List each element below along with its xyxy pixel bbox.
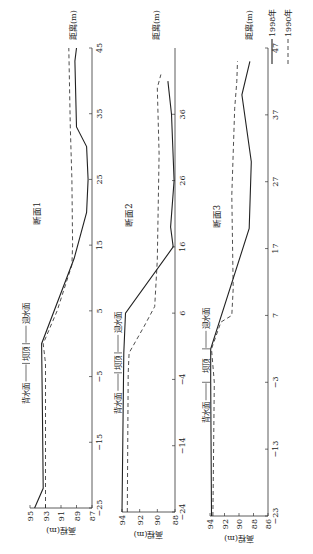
y-axis-label: 高程(m) — [224, 534, 254, 544]
x-axis-label: 距离(m) — [68, 10, 78, 40]
y-tick-label: 90 — [235, 519, 244, 529]
x-tick-label: 35 — [95, 109, 104, 119]
series-1998-line — [211, 61, 252, 516]
front-slope-label: 迎水面 — [21, 302, 31, 324]
x-tick-label: −15 — [95, 434, 104, 451]
y-tick-label: 93 — [42, 511, 51, 521]
y-tick-label: 95 — [26, 511, 35, 521]
y-axis-label: 高程(m) — [134, 530, 164, 540]
series-1990-line — [127, 75, 161, 513]
y-tick-label: 88 — [250, 519, 259, 529]
x-tick-label: −23 — [271, 508, 280, 525]
panel-section-1: 8789919395−25−15−5515253545高程(m)距离(m)断面1… — [21, 10, 104, 536]
x-tick-label: −25 — [95, 500, 104, 517]
x-tick-label: −13 — [271, 441, 280, 458]
x-tick-label: 36 — [178, 109, 187, 119]
crest-annotation: 坝顶背水面迎水面 — [113, 311, 123, 414]
crest-annotation: 坝顶背水面迎水面 — [21, 302, 31, 405]
back-slope-label: 背水面 — [113, 392, 123, 414]
x-tick-label: −24 — [178, 504, 187, 521]
panel-title: 断面2 — [124, 203, 134, 226]
x-tick-label: 7 — [271, 313, 280, 318]
panel-section-2: 88909294−24−14−46162636高程(m)距离(m)断面2坝顶背水… — [113, 10, 187, 540]
legend-label: 1990年 — [283, 9, 293, 37]
x-tick-label: −14 — [178, 437, 187, 454]
y-tick-label: 92 — [221, 519, 230, 529]
back-slope-label: 背水面 — [21, 382, 31, 404]
x-tick-label: −5 — [95, 371, 104, 383]
series-1998-line — [122, 81, 174, 512]
upright-chart-group: 8789919395−25−15−5515253545高程(m)距离(m)断面1… — [21, 9, 293, 544]
y-tick-label: 94 — [206, 519, 215, 529]
crest-label: 坝顶 — [22, 346, 31, 361]
y-tick-label: 94 — [118, 515, 127, 525]
panel-title: 断面1 — [32, 202, 42, 225]
x-tick-label: 17 — [271, 243, 280, 253]
x-tick-label: 26 — [178, 175, 187, 185]
figure-svg: 8789919395−25−15−5515253545高程(m)距离(m)断面1… — [0, 0, 313, 554]
x-tick-label: 45 — [95, 43, 104, 53]
x-tick-label: 16 — [178, 242, 187, 252]
y-tick-label: 90 — [153, 515, 162, 525]
panel-section-3: 8688909294−23−13−3717273747高程(m)距离(m)断面3… — [201, 10, 280, 544]
crest-label: 坝顶 — [202, 358, 211, 373]
x-tick-label: −4 — [178, 374, 187, 386]
legend: 1990年1998年 — [267, 9, 293, 64]
back-slope-label: 背水面 — [201, 401, 211, 423]
x-tick-label: 5 — [95, 308, 104, 313]
y-axis-label: 高程(m) — [46, 526, 76, 536]
rotated-figure: 8789919395−25−15−5515253545高程(m)距离(m)断面1… — [0, 0, 313, 554]
front-slope-label: 迎水面 — [201, 307, 211, 329]
x-tick-label: 37 — [271, 110, 280, 120]
x-tick-label: −3 — [271, 376, 280, 388]
x-tick-label: 27 — [271, 177, 280, 187]
x-tick-label: 25 — [95, 174, 104, 184]
series-1990-line — [212, 61, 238, 516]
series-1998-line — [35, 48, 89, 508]
crest-label: 坝顶 — [114, 355, 123, 370]
crest-annotation: 坝顶背水面迎水面 — [201, 307, 211, 423]
x-tick-label: 6 — [178, 311, 187, 316]
x-tick-label: 15 — [95, 240, 104, 250]
front-slope-label: 迎水面 — [113, 311, 123, 333]
x-axis-label: 距离(m) — [151, 10, 161, 40]
y-tick-label: 92 — [136, 515, 145, 525]
x-axis-label: 距离(m) — [244, 10, 254, 40]
legend-label: 1998年 — [267, 9, 277, 37]
y-tick-label: 89 — [73, 511, 82, 521]
series-1990-line — [43, 48, 72, 508]
y-tick-label: 91 — [57, 511, 66, 521]
panel-title: 断面3 — [212, 205, 222, 228]
